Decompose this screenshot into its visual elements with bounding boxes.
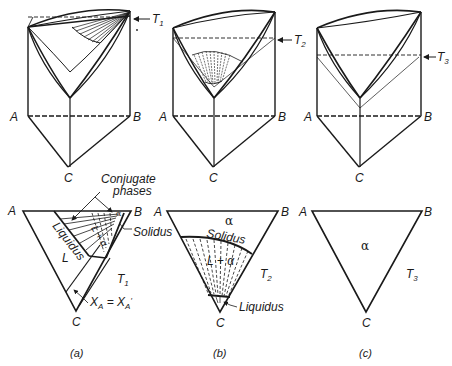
two-phase-region-label-b: L + α — [207, 254, 235, 268]
ternary-isomorphous-figure: T1 A B C — [0, 0, 452, 366]
prism-b-vertex-c: C — [209, 171, 218, 185]
prism-b-vertex-a: A — [158, 110, 167, 124]
prism-c-vertex-c: C — [355, 171, 364, 185]
isothermal-section-c — [312, 211, 422, 312]
svg-text:T3: T3 — [437, 50, 449, 66]
svg-text:T2: T2 — [294, 33, 306, 49]
section-c-vertex-a: A — [298, 205, 307, 219]
prism-a-vertex-b: B — [133, 110, 141, 124]
prism-c-vertex-a: A — [303, 110, 312, 124]
solid-region-label-a: α — [116, 209, 122, 218]
section-b-vertex-c: C — [216, 316, 225, 330]
caption-c: (c) — [359, 347, 372, 359]
section-b-vertex-b: B — [281, 205, 289, 219]
prism-a — [28, 10, 130, 167]
temperature-marker-t1: T1 — [134, 12, 164, 31]
svg-text:T1: T1 — [152, 12, 164, 28]
prism-a-vertex-a: A — [9, 110, 18, 124]
caption-a: (a) — [70, 347, 84, 359]
temperature-marker-t2: T2 — [278, 33, 306, 49]
section-b-temperature: T2 — [260, 267, 272, 283]
caption-b: (b) — [213, 347, 227, 359]
solid-region-label-c: α — [361, 239, 369, 253]
section-c-vertex-b: B — [424, 205, 432, 219]
section-c-vertex-c: C — [362, 316, 371, 330]
temperature-marker-t3: T3 — [424, 50, 449, 66]
solid-region-label-b: α — [225, 214, 233, 228]
section-a-vertex-b: B — [134, 205, 142, 219]
prism-b-vertex-b: B — [278, 110, 286, 124]
liquidus-label-a: Liquidus — [50, 219, 89, 263]
section-a-vertex-a: A — [7, 204, 16, 218]
conjugate-phases-label-line2: phases — [112, 184, 152, 198]
section-b-vertex-a: A — [153, 205, 162, 219]
solidus-label-b: Solidus — [205, 226, 246, 247]
solidus-label-a: Solidus — [133, 225, 172, 239]
prism-b — [173, 10, 275, 167]
liquid-region-label: L — [62, 251, 69, 265]
prism-c-vertex-b: B — [424, 110, 432, 124]
prism-a-vertex-c: C — [64, 171, 73, 185]
section-a-vertex-c: C — [72, 315, 81, 329]
liquidus-label-b: Liquidus — [239, 300, 284, 314]
prism-c — [317, 10, 421, 167]
section-c-temperature: T3 — [406, 267, 418, 283]
isocomposition-label: XA = XA′ — [89, 295, 132, 311]
section-a-temperature: T1 — [117, 272, 129, 288]
